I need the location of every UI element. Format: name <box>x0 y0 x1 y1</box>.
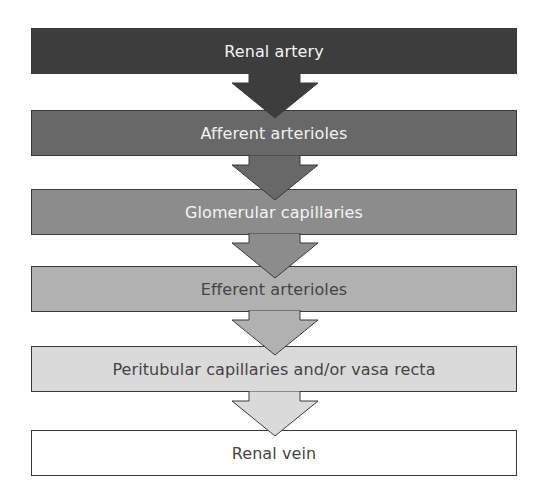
renal-blood-flow-diagram: Renal artery Afferent arterioles Glomeru… <box>0 0 545 502</box>
down-arrow-icon <box>230 233 320 279</box>
step-label: Afferent arterioles <box>201 124 348 143</box>
down-arrow-icon <box>230 155 320 201</box>
down-arrow-icon <box>230 73 320 119</box>
step-label: Glomerular capillaries <box>185 203 363 222</box>
down-arrow-icon <box>230 391 320 437</box>
down-arrow-icon <box>230 310 320 356</box>
step-label: Renal vein <box>232 444 317 463</box>
step-label: Renal artery <box>224 42 323 61</box>
step-renal-artery: Renal artery <box>31 28 517 74</box>
step-label: Efferent arterioles <box>201 280 348 299</box>
step-label: Peritubular capillaries and/or vasa rect… <box>112 360 435 379</box>
